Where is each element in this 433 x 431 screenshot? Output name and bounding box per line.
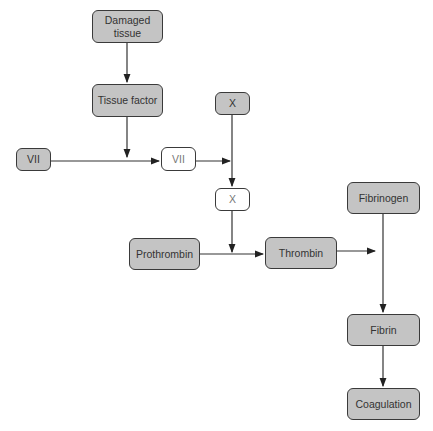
node-coagulation: Coagulation [347,388,420,420]
node-fibrinogen: Fibrinogen [347,182,420,214]
node-fibrin: Fibrin [347,314,420,346]
node-prothrombin: Prothrombin [129,238,200,270]
edge-layer [0,0,433,431]
node-tissue-factor: Tissue factor [92,84,163,117]
node-thrombin: Thrombin [265,237,337,269]
node-x: X [215,92,250,115]
node-vii: VII [16,148,51,171]
node-x-active: X [215,188,250,211]
node-vii-active: VII [161,147,196,171]
node-damaged-tissue: Damaged tissue [92,10,163,43]
